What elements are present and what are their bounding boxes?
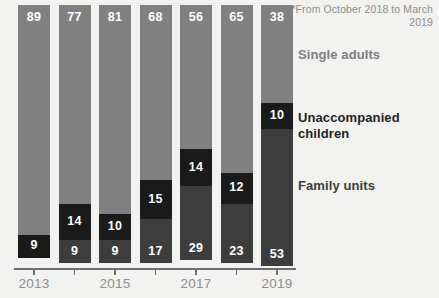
bar-segment-2015-single-adults: 81 (99, 5, 131, 214)
bar-segment-2015-unaccompanied-children: 10 (99, 214, 131, 240)
bar-value-2017-single-adults: 56 (180, 11, 212, 24)
bar-2014: 77149 (59, 5, 91, 263)
legend-label-single-adults: Single adults (298, 47, 434, 63)
bar-segment-2014-single-adults: 77 (59, 5, 91, 204)
bar-segment-2018-family-units: 23 (221, 204, 253, 263)
bar-segment-2017-unaccompanied-children: 14 (180, 149, 212, 185)
x-axis-tick-2013 (33, 269, 35, 275)
x-axis-tick-2018 (236, 269, 238, 275)
bar-value-2017-family-units: 29 (180, 242, 212, 255)
bar-segment-2015-family-units: 9 (99, 240, 131, 263)
bar-value-2019-unaccompanied-children: 10 (261, 109, 293, 122)
plot-area: 8997714981109681517561429651223381053 (18, 5, 290, 263)
bar-segment-2016-single-adults: 68 (140, 5, 172, 180)
x-axis-label-2015: 2015 (85, 276, 145, 291)
bar-segment-2016-family-units: 17 (140, 219, 172, 263)
stacked-bar-chart: *From October 2018 to March 2019 8997714… (0, 0, 439, 298)
x-axis-tick-2019 (276, 269, 278, 275)
bar-value-2015-single-adults: 81 (99, 11, 131, 24)
bar-segment-2018-unaccompanied-children: 12 (221, 173, 253, 204)
bar-segment-2018-single-adults: 65 (221, 5, 253, 173)
bar-segment-2013-single-adults: 89 (18, 5, 50, 235)
bar-segment-2016-unaccompanied-children: 15 (140, 180, 172, 219)
legend-label-family-units: Family units (298, 178, 434, 194)
bar-value-2019-family-units: 53 (261, 248, 293, 261)
x-axis-tick-2017 (195, 269, 197, 275)
x-axis-label-2017: 2017 (166, 276, 226, 291)
bar-value-2015-unaccompanied-children: 10 (99, 220, 131, 233)
chart-footnote: *From October 2018 to March 2019 (273, 3, 433, 29)
bar-value-2018-family-units: 23 (221, 245, 253, 258)
bar-segment-2017-family-units: 29 (180, 186, 212, 261)
bar-segment-2014-family-units: 9 (59, 240, 91, 263)
bar-2018: 651223 (221, 5, 253, 263)
bar-2017: 561429 (180, 5, 212, 263)
bar-value-2017-unaccompanied-children: 14 (180, 161, 212, 174)
bar-value-2016-single-adults: 68 (140, 11, 172, 24)
bar-segment-2019-family-units: 53 (261, 129, 293, 266)
x-axis-label-2019: 2019 (247, 276, 307, 291)
bar-value-2019-single-adults: 38 (261, 11, 293, 24)
bar-value-2018-unaccompanied-children: 12 (221, 181, 253, 194)
bar-value-2014-unaccompanied-children: 14 (59, 215, 91, 228)
x-axis-tick-2015 (114, 269, 116, 275)
bar-value-2013-unaccompanied-children: 9 (18, 239, 50, 252)
bar-2013: 899 (18, 5, 50, 263)
legend-label-unaccompanied-children: Unaccompanied children (298, 110, 434, 141)
x-axis-tick-2016 (155, 269, 157, 275)
bar-2016: 681517 (140, 5, 172, 263)
bar-value-2018-single-adults: 65 (221, 11, 253, 24)
bar-segment-2013-unaccompanied-children: 9 (18, 235, 50, 258)
bar-2015: 81109 (99, 5, 131, 263)
bar-segment-2019-single-adults: 38 (261, 5, 293, 103)
bar-value-2013-single-adults: 89 (18, 11, 50, 24)
x-axis-label-2013: 2013 (4, 276, 64, 291)
bar-segment-2019-unaccompanied-children: 10 (261, 103, 293, 129)
bar-value-2016-unaccompanied-children: 15 (140, 193, 172, 206)
bar-value-2014-single-adults: 77 (59, 11, 91, 24)
bar-value-2016-family-units: 17 (140, 245, 172, 258)
bar-segment-2017-single-adults: 56 (180, 5, 212, 149)
x-axis-tick-2014 (74, 269, 76, 275)
bar-2019: 381053 (261, 5, 293, 263)
bar-value-2014-family-units: 9 (59, 245, 91, 258)
bar-segment-2014-unaccompanied-children: 14 (59, 204, 91, 240)
bar-value-2015-family-units: 9 (99, 245, 131, 258)
